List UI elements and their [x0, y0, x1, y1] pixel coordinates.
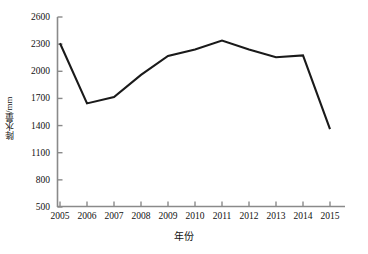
- precipitation-series-line: [60, 41, 330, 130]
- precipitation-line-chart: 降水量/mm 2600 2300 2000 1700 1400 1100 800…: [0, 0, 368, 254]
- plot-area: [0, 0, 368, 254]
- axis-lines: [57, 17, 345, 207]
